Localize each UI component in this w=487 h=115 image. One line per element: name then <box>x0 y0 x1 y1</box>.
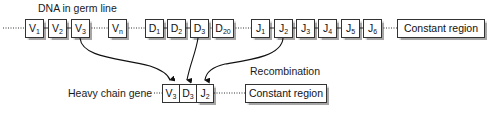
heavy-chain-constant-region: Constant region <box>245 84 327 103</box>
segment-j3: J3 <box>296 19 315 38</box>
vdj-recombination-diagram: DNA in germ line V1V2V3VnD1D2D3D20J1J2J3… <box>0 0 487 115</box>
heavy-chain-label: Heavy chain gene <box>68 87 152 99</box>
recombination-label: Recombination <box>250 65 320 77</box>
germline-constant-region: Constant region <box>397 19 485 38</box>
segment-d2: D2 <box>167 19 186 38</box>
segment-j6: J6 <box>363 19 382 38</box>
segment-vn: Vn <box>108 19 127 38</box>
segment-v1: V1 <box>25 19 44 38</box>
segment-d20: D20 <box>212 19 234 38</box>
segment-v2: V2 <box>48 19 67 38</box>
heavy-segment-j2: J2 <box>196 84 214 103</box>
segment-j4: J4 <box>318 19 337 38</box>
segment-v3: V3 <box>71 19 90 38</box>
segment-d3: D3 <box>190 19 209 38</box>
germline-title: DNA in germ line <box>38 2 117 14</box>
heavy-segment-v3: V3 <box>162 84 180 103</box>
segment-d1: D1 <box>145 19 164 38</box>
segment-j5: J5 <box>341 19 360 38</box>
segment-j2: J2 <box>274 19 293 38</box>
heavy-segment-d3: D3 <box>179 84 197 103</box>
segment-j1: J1 <box>251 19 270 38</box>
